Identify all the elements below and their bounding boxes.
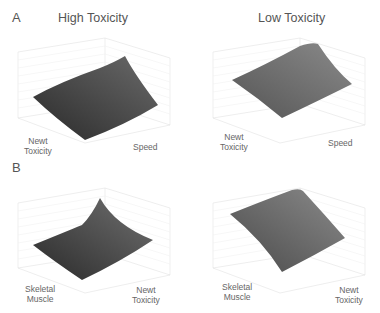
ylabel-a-left: Speed: [133, 142, 158, 152]
xlabel-line1: Newt: [24, 136, 52, 146]
ylabel-line1: Newt: [132, 285, 160, 295]
ylabel-line1: Newt: [335, 285, 363, 295]
xlabel-line2: Muscle: [222, 292, 252, 302]
panel-label-a: A: [12, 10, 21, 25]
xlabel-b-right: Skeletal Muscle: [222, 282, 252, 302]
xlabel-a-left: Newt Toxicity: [24, 136, 52, 156]
surface-a-high: [33, 56, 158, 140]
xlabel-line1: Skeletal: [222, 282, 252, 292]
figure-canvas: [0, 0, 380, 313]
xlabel-line2: Toxicity: [24, 146, 52, 156]
xlabel-line1: Newt: [220, 132, 248, 142]
xlabel-b-left: Skeletal Muscle: [25, 284, 55, 304]
panel-label-b: B: [12, 160, 21, 175]
xlabel-a-right: Newt Toxicity: [220, 132, 248, 152]
xlabel-line2: Muscle: [25, 294, 55, 304]
xlabel-line2: Toxicity: [220, 142, 248, 152]
ylabel-line2: Toxicity: [132, 295, 160, 305]
surface-b-right: [230, 189, 345, 272]
title-high-toxicity: High Toxicity: [58, 11, 128, 25]
ylabel-line2: Toxicity: [335, 295, 363, 305]
ylabel-b-right: Newt Toxicity: [335, 285, 363, 305]
surface-b-left: [33, 198, 153, 280]
ylabel-b-left: Newt Toxicity: [132, 285, 160, 305]
title-low-toxicity: Low Toxicity: [258, 11, 325, 25]
surface-a-low: [232, 43, 352, 118]
xlabel-line1: Skeletal: [25, 284, 55, 294]
ylabel-a-right: Speed: [328, 138, 353, 148]
